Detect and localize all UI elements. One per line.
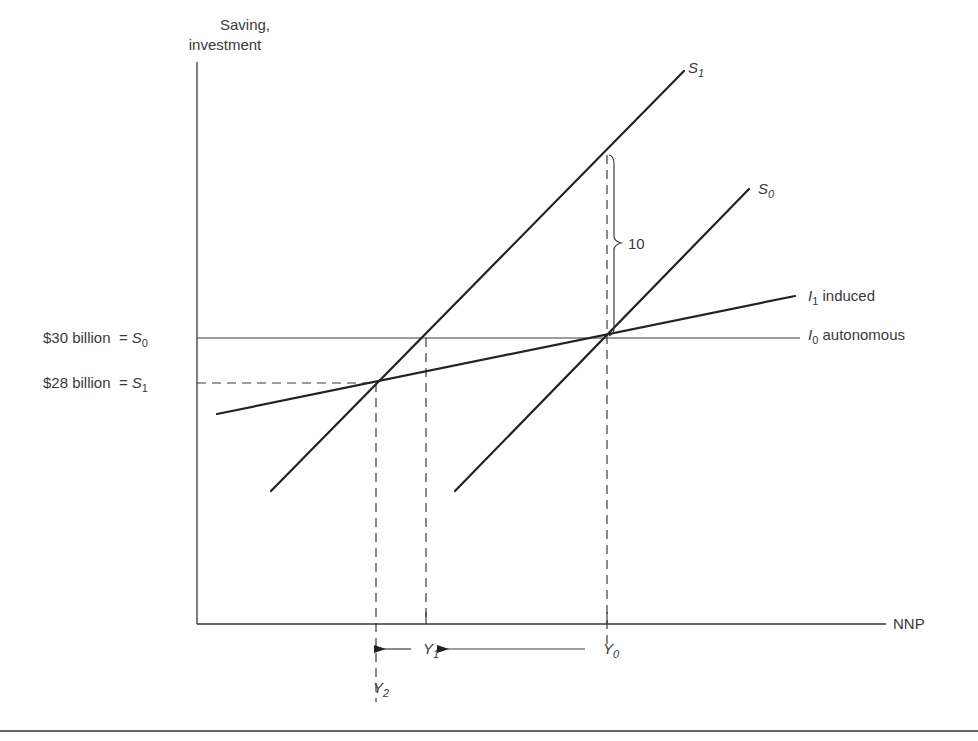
brace-shift-label: 10 — [628, 235, 645, 252]
y-axis-label-line1: Saving, — [220, 16, 270, 33]
ytick-30-billion: $30 billion = S0 — [43, 329, 148, 349]
brace-shift — [609, 155, 621, 336]
x-axis-label: NNP — [893, 615, 925, 632]
line-i1-induced — [217, 296, 795, 414]
label-s1: S1 — [688, 59, 704, 79]
y-axis-label-line2: investment — [189, 36, 262, 53]
label-i1-induced: I1 induced — [808, 287, 875, 307]
label-i0-autonomous: I0 autonomous — [808, 326, 905, 346]
y-axis-label: Saving, investment — [189, 16, 270, 53]
line-s1 — [271, 71, 684, 491]
xtick-y1: Y1 — [423, 640, 439, 660]
label-s0: S0 — [758, 180, 775, 200]
xtick-y0: Y0 — [603, 640, 620, 660]
saving-investment-diagram: Saving, investment NNP 10 S1 S0 I1 induc… — [0, 0, 978, 741]
line-s0 — [455, 189, 749, 491]
xtick-y2: Y2 — [373, 679, 389, 699]
ytick-28-billion: $28 billion = S1 — [43, 374, 148, 394]
